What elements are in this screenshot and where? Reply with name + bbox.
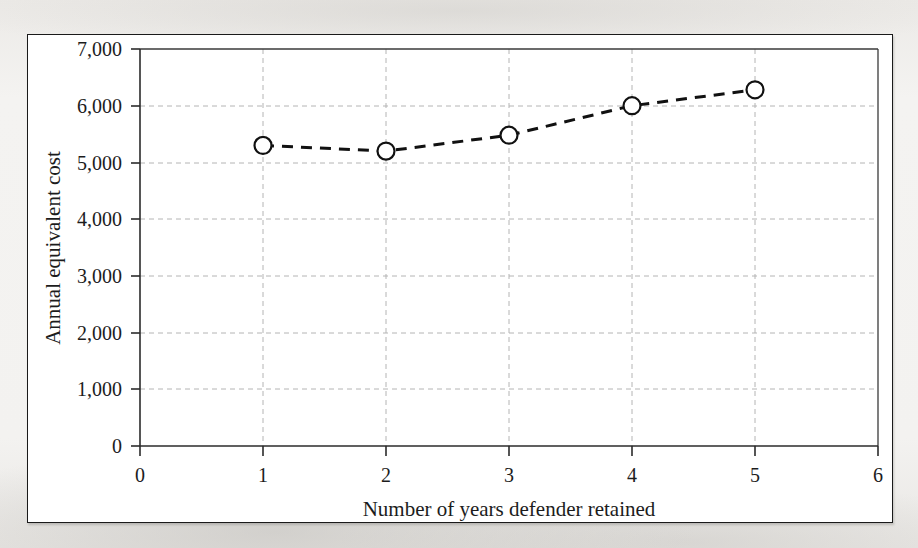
data-point-year-4 — [624, 97, 641, 114]
y-tick-marks — [131, 49, 140, 446]
y-tick-label-3000: 3,000 — [77, 265, 122, 287]
y-tick-labels: 7,000 6,000 5,000 4,000 3,000 2,000 1,00… — [77, 38, 122, 457]
x-axis-title: Number of years defender retained — [363, 497, 656, 521]
y-axis-title: Annual equivalent cost — [41, 151, 65, 345]
x-tick-label-4: 4 — [627, 464, 637, 486]
figure-page: 7,000 6,000 5,000 4,000 3,000 2,000 1,00… — [0, 0, 918, 548]
y-tick-label-4000: 4,000 — [77, 208, 122, 230]
data-point-year-1 — [255, 137, 272, 154]
y-tick-label-1000: 1,000 — [77, 378, 122, 400]
y-tick-label-6000: 6,000 — [77, 95, 122, 117]
line-chart: 7,000 6,000 5,000 4,000 3,000 2,000 1,00… — [28, 35, 891, 521]
x-tick-label-0: 0 — [135, 464, 145, 486]
x-tick-label-3: 3 — [504, 464, 514, 486]
grid-vertical — [263, 49, 755, 446]
figure-frame: 7,000 6,000 5,000 4,000 3,000 2,000 1,00… — [27, 34, 893, 523]
y-tick-label-7000: 7,000 — [77, 38, 122, 60]
x-tick-labels: 0 1 2 3 4 5 6 — [135, 464, 883, 486]
data-point-year-5 — [747, 81, 764, 98]
x-tick-label-1: 1 — [258, 464, 268, 486]
x-tick-marks — [140, 446, 878, 456]
y-tick-label-0: 0 — [112, 435, 122, 457]
x-tick-label-5: 5 — [750, 464, 760, 486]
x-tick-label-2: 2 — [381, 464, 391, 486]
y-tick-label-5000: 5,000 — [77, 152, 122, 174]
x-tick-label-6: 6 — [873, 464, 883, 486]
y-tick-label-2000: 2,000 — [77, 322, 122, 344]
data-point-year-3 — [501, 127, 518, 144]
data-point-year-2 — [378, 143, 395, 160]
